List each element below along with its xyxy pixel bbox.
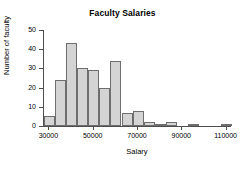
histogram-bar [166, 122, 177, 126]
histogram-bar [155, 124, 166, 126]
y-axis-tick [39, 88, 43, 89]
x-axis-tick [181, 126, 182, 130]
y-axis-tick-label: 0 [14, 122, 36, 129]
y-axis-tick [39, 107, 43, 108]
y-axis-tick-label: 10 [14, 103, 36, 110]
x-axis-tick [48, 126, 49, 130]
histogram-chart: Faculty Salaries 01020304050 30000500007… [0, 0, 245, 171]
histogram-bar [122, 113, 133, 126]
y-axis-tick [39, 49, 43, 50]
y-axis-tick-label: 30 [14, 64, 36, 71]
histogram-bar [110, 61, 121, 126]
plot-area [44, 30, 230, 126]
x-axis-tick [226, 126, 227, 130]
chart-title: Faculty Salaries [0, 8, 245, 18]
y-axis-tick-label: 20 [14, 84, 36, 91]
x-axis-tick-label: 50000 [73, 132, 113, 139]
histogram-bar [221, 124, 232, 126]
y-axis-tick [39, 30, 43, 31]
histogram-bar [77, 68, 88, 126]
histogram-bar [133, 111, 144, 126]
histogram-bar [66, 43, 77, 126]
histogram-bar [188, 124, 199, 126]
y-axis-tick-label: 50 [14, 26, 36, 33]
x-axis-label: Salary [44, 147, 230, 156]
y-axis-tick-label: 40 [14, 45, 36, 52]
histogram-bar [44, 116, 55, 126]
x-axis-tick [93, 126, 94, 130]
histogram-bar [144, 122, 155, 126]
x-axis-tick-label: 70000 [117, 132, 157, 139]
x-axis-tick-label: 110000 [206, 132, 245, 139]
y-axis-label: Number of faculty [2, 1, 11, 91]
histogram-bar [55, 80, 66, 126]
x-axis-tick-label: 30000 [28, 132, 68, 139]
y-axis-tick [39, 68, 43, 69]
y-axis-tick [39, 126, 43, 127]
histogram-bar [99, 88, 110, 126]
x-axis-tick-label: 90000 [161, 132, 201, 139]
histogram-bar [88, 70, 99, 126]
x-axis-tick [137, 126, 138, 130]
